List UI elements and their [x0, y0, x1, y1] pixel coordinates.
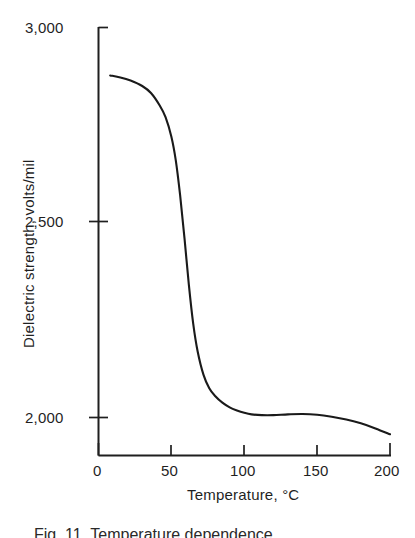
figure-caption: Fig. 11. Temperature dependence — [34, 526, 414, 538]
x-tick-label-200: 200 — [374, 462, 400, 479]
data-series-line — [110, 75, 390, 434]
chart-plot-area — [0, 0, 415, 538]
y-tick-label-2000: 2,000 — [25, 409, 64, 426]
y-tick-label-3000: 3,000 — [25, 19, 64, 36]
y-axis-title: Dielectric strength, volts/mil — [20, 159, 37, 348]
x-axis-title: Temperature, °C — [187, 486, 299, 503]
x-tick-label-0: 0 — [93, 462, 102, 479]
x-tick-label-50: 50 — [161, 462, 178, 479]
figure-container: 3,000 2,500 2,000 0 50 100 150 200 Diele… — [0, 0, 415, 538]
x-tick-label-100: 100 — [230, 462, 256, 479]
x-tick-label-150: 150 — [303, 462, 329, 479]
